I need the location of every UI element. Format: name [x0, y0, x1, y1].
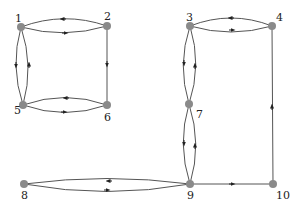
- node-label-4: 4: [276, 11, 283, 24]
- node-7: [185, 100, 193, 108]
- edge-4-3: [190, 18, 272, 26]
- node-label-2: 2: [104, 10, 111, 23]
- node-label-8: 8: [21, 189, 28, 202]
- edge-10-4: [272, 26, 273, 184]
- node-4: [268, 22, 276, 30]
- node-label-3: 3: [186, 11, 193, 24]
- node-label-10: 10: [276, 189, 290, 202]
- node-6: [103, 101, 111, 109]
- node-9: [186, 180, 194, 188]
- edge-5-6: [23, 105, 107, 113]
- node-2: [103, 22, 111, 30]
- edge-6-5: [23, 98, 107, 106]
- node-label-5: 5: [14, 104, 21, 117]
- node-label-9: 9: [187, 189, 194, 202]
- node-10: [269, 180, 277, 188]
- graph-canvas: 1 2 3 4 5 6 7 8 9 10: [0, 0, 304, 209]
- edge-3-7: [183, 26, 190, 104]
- node-label-7: 7: [196, 108, 203, 121]
- node-label-6: 6: [104, 111, 111, 124]
- edge-9-7: [189, 104, 196, 184]
- edge-8-9: [24, 184, 190, 192]
- edge-3-4: [190, 26, 272, 32]
- node-8: [20, 180, 28, 188]
- edge-2-1: [21, 19, 107, 27]
- edge-7-3: [189, 26, 196, 104]
- edge-5-1: [21, 27, 29, 105]
- edge-1-5: [16, 27, 23, 105]
- edge-1-2: [21, 26, 107, 33]
- node-label-1: 1: [15, 12, 22, 25]
- edge-7-9: [183, 104, 190, 184]
- edge-9-8: [24, 179, 190, 185]
